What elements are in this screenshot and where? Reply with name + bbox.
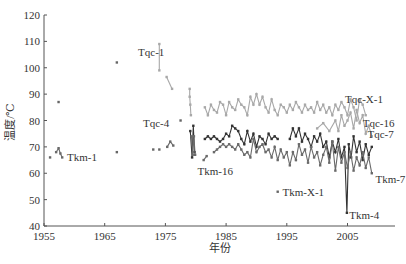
data-point-marker	[213, 135, 215, 137]
data-point-marker	[267, 111, 269, 113]
data-point-marker	[246, 130, 248, 132]
data-point-marker	[283, 106, 285, 108]
data-point-marker	[192, 154, 194, 156]
data-point-marker	[307, 162, 309, 164]
data-point-marker	[352, 127, 354, 129]
data-point-marker	[228, 143, 230, 145]
data-point-marker	[368, 154, 370, 156]
data-point-marker	[222, 143, 224, 145]
data-point-marker	[276, 138, 278, 140]
data-point-marker	[365, 167, 367, 169]
data-point-marker	[225, 114, 227, 116]
data-point-marker	[228, 135, 230, 137]
data-point-marker	[361, 114, 363, 116]
data-point-marker	[237, 143, 239, 145]
data-point-marker	[298, 143, 300, 145]
data-point-marker	[301, 154, 303, 156]
data-point-marker	[295, 135, 297, 137]
data-point-marker	[205, 155, 207, 157]
data-point-marker	[261, 96, 263, 98]
data-point-marker	[349, 111, 351, 113]
series-label: Tqc-4	[143, 117, 170, 129]
data-point-marker	[292, 151, 294, 153]
data-point-marker	[204, 106, 206, 108]
data-point-marker	[165, 76, 167, 78]
data-point-marker	[204, 138, 206, 140]
data-point-marker	[158, 43, 160, 45]
data-point-marker	[298, 127, 300, 129]
y-tick-label: 90	[29, 88, 41, 100]
data-point-marker	[273, 135, 275, 137]
data-point-marker	[340, 162, 342, 164]
data-point-marker	[340, 114, 342, 116]
data-point-marker	[255, 151, 257, 153]
data-point-marker	[304, 148, 306, 150]
data-point-marker	[237, 130, 239, 132]
data-point-marker	[166, 146, 168, 148]
data-point-marker	[189, 103, 191, 105]
series-layer	[49, 43, 373, 214]
data-point-marker	[289, 103, 291, 105]
data-point-marker	[273, 146, 275, 148]
data-point-marker	[349, 151, 351, 153]
data-point-marker	[319, 164, 321, 166]
data-point-marker	[207, 135, 209, 137]
data-point-marker	[295, 101, 297, 103]
data-point-marker	[316, 101, 318, 103]
data-point-marker	[368, 156, 370, 158]
data-point-marker	[158, 69, 160, 71]
data-point-marker	[346, 114, 348, 116]
data-point-marker	[190, 135, 192, 137]
data-point-marker	[243, 154, 245, 156]
data-point-marker	[331, 140, 333, 142]
data-point-marker	[258, 146, 260, 148]
data-point-marker	[301, 140, 303, 142]
data-point-marker	[194, 154, 196, 156]
data-point-marker	[331, 114, 333, 116]
data-point-marker	[55, 151, 57, 153]
data-point-marker	[192, 125, 194, 127]
data-point-marker	[304, 132, 306, 134]
data-point-marker	[249, 96, 251, 98]
data-point-marker	[319, 132, 321, 134]
data-point-marker	[355, 109, 357, 111]
data-point-marker	[280, 148, 282, 150]
series-label: Tqc-1	[138, 46, 164, 58]
data-point-marker	[188, 96, 190, 98]
data-point-marker	[222, 138, 224, 140]
x-axis-label: 年份	[209, 241, 231, 254]
data-point-marker	[358, 140, 360, 142]
data-point-marker	[276, 114, 278, 116]
data-point-marker	[231, 146, 233, 148]
series-label: Tkm-7	[375, 173, 405, 185]
data-point-marker	[340, 101, 342, 103]
data-point-marker	[116, 61, 118, 63]
data-point-marker	[249, 140, 251, 142]
data-point-marker	[276, 159, 278, 161]
data-point-marker	[216, 111, 218, 113]
x-tick-label: 1995	[276, 230, 299, 242]
y-tick-label: 100	[24, 62, 41, 74]
data-point-marker	[261, 138, 263, 140]
y-axis-label: 温度/℃	[3, 103, 16, 140]
data-point-marker	[193, 135, 195, 137]
data-point-marker	[361, 151, 363, 153]
data-point-marker	[280, 103, 282, 105]
data-point-marker	[283, 156, 285, 158]
data-point-marker	[231, 106, 233, 108]
data-point-marker	[322, 146, 324, 148]
data-point-marker	[219, 140, 221, 142]
data-point-marker	[343, 106, 345, 108]
data-point-marker	[240, 138, 242, 140]
data-point-marker	[316, 127, 318, 129]
data-point-marker	[179, 119, 181, 121]
data-point-marker	[295, 159, 297, 161]
data-point-marker	[234, 127, 236, 129]
data-point-marker	[286, 111, 288, 113]
data-point-marker	[246, 114, 248, 116]
data-point-marker	[322, 122, 324, 124]
data-point-marker	[307, 138, 309, 140]
data-point-marker	[240, 148, 242, 150]
data-point-marker	[57, 101, 59, 103]
data-point-marker	[337, 130, 339, 132]
